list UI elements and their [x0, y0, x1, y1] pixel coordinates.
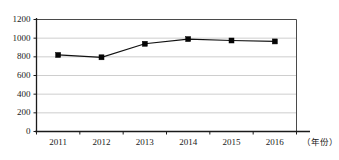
x-axis-tick-label: 2013: [136, 137, 155, 147]
y-axis-tick-label: 1000: [13, 33, 32, 43]
data-point-marker: [186, 37, 191, 42]
data-point-marker: [272, 39, 277, 44]
y-axis-tick-label: 1200: [13, 14, 32, 24]
x-axis-tick-label: 2015: [223, 137, 242, 147]
chart-canvas: 020040060080010001200 201120122013201420…: [0, 0, 339, 160]
gridlines: [37, 20, 297, 113]
axes: [35, 18, 310, 132]
x-axis-tick-label: 2016: [266, 137, 285, 147]
data-point-marker: [142, 41, 147, 46]
x-axis-unit-label: （年份）: [302, 137, 338, 147]
series-line-path: [58, 39, 275, 57]
data-series: [56, 37, 278, 60]
y-axis-tick-label: 400: [17, 89, 31, 99]
data-point-marker: [56, 52, 61, 57]
y-axis-tick-label: 0: [26, 126, 31, 136]
x-axis-tick-label: 2012: [93, 137, 111, 147]
data-point-marker: [99, 55, 104, 60]
y-axis-tick-label: 800: [17, 51, 31, 61]
y-axis-tick-labels: 020040060080010001200: [13, 14, 32, 136]
y-axis-tick-label: 200: [17, 107, 31, 117]
x-axis-tick-label: 2014: [179, 137, 198, 147]
line-chart: 020040060080010001200 201120122013201420…: [0, 0, 339, 160]
x-axis-tick-labels: 201120122013201420152016: [49, 137, 284, 147]
x-axis-tick-label: 2011: [49, 137, 67, 147]
y-axis-tick-label: 600: [17, 70, 31, 80]
data-point-marker: [229, 38, 234, 43]
